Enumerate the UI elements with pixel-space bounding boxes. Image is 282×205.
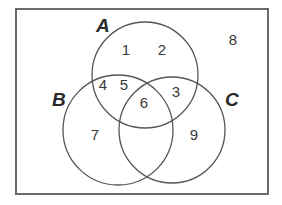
region-3: 3 [172,83,180,100]
region-4: 4 [99,76,107,93]
set-a-label: A [95,15,110,36]
venn-diagram: A B C 1 2 8 4 5 3 6 7 9 [0,0,282,205]
region-2: 2 [158,41,166,58]
region-6: 6 [140,94,148,111]
region-7: 7 [91,126,99,143]
region-5: 5 [120,76,128,93]
region-1: 1 [122,41,130,58]
region-9: 9 [190,126,198,143]
region-8: 8 [229,31,237,48]
set-b-label: B [52,89,66,110]
set-c-label: C [225,89,239,110]
